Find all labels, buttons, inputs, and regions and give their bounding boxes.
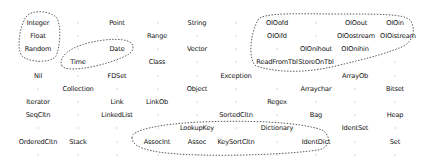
grid-dot	[38, 89, 39, 90]
class-node-storeontbl: StoreOnTbl	[298, 58, 333, 66]
grid-dot	[197, 76, 198, 77]
class-node-bag: Bag	[310, 111, 322, 119]
class-node-collection: Collection	[62, 85, 93, 93]
class-node-heap: Heap	[387, 111, 404, 119]
class-node-seqcltn: SeqCltn	[26, 111, 51, 119]
class-node-random: Random	[25, 45, 51, 53]
class-node-nil: Nil	[34, 72, 42, 80]
grid-dot	[38, 62, 39, 63]
class-node-float: Float	[30, 32, 46, 40]
class-node-link: Link	[111, 98, 124, 106]
grid-dot	[355, 155, 356, 156]
grid-dot	[395, 102, 396, 103]
class-node-regex: Regex	[267, 98, 287, 106]
grid-dot	[78, 49, 79, 50]
grid-dot	[395, 76, 396, 77]
class-node-readfromtbl: ReadFromTbl	[256, 58, 297, 66]
grid-dot	[277, 89, 278, 90]
grid-dot	[277, 142, 278, 143]
class-node-linkedlist: LinkedList	[101, 111, 133, 119]
class-node-time: Time	[70, 58, 86, 66]
grid-dot	[38, 155, 39, 156]
grid-dot	[277, 115, 278, 116]
class-node-linkob: LinkOb	[146, 98, 168, 106]
grid-dot	[236, 62, 237, 63]
grid-dot	[316, 36, 317, 37]
class-node-oioifd: OIOifd	[267, 32, 287, 40]
grid-dot	[236, 89, 237, 90]
grid-dot	[38, 128, 39, 129]
class-node-orderedcltn: OrderedCltn	[19, 138, 57, 146]
grid-dot	[117, 128, 118, 129]
class-node-bitset: Bitset	[386, 85, 404, 93]
class-node-dictionary: Dictionary	[261, 124, 293, 132]
grid-dot	[197, 155, 198, 156]
grid-dot	[277, 49, 278, 50]
class-node-set: Set	[390, 138, 400, 146]
class-node-range: Range	[147, 32, 167, 40]
class-node-keysortcltn: KeySortCltn	[217, 138, 254, 146]
grid-dot	[236, 23, 237, 24]
class-node-lookupkey: LookupKey	[180, 124, 214, 132]
class-node-identset: IdentSet	[342, 124, 369, 132]
grid-dot	[316, 155, 317, 156]
grid-dot	[197, 62, 198, 63]
class-node-iterator: Iterator	[26, 98, 49, 106]
class-node-assocint: AssocInt	[144, 138, 171, 146]
grid-dot	[197, 115, 198, 116]
class-node-oioout: OIOout	[345, 19, 367, 27]
grid-dot	[117, 89, 118, 90]
grid-dot	[277, 155, 278, 156]
class-node-exception: Exception	[220, 72, 251, 80]
grid-dot	[117, 142, 118, 143]
grid-dot	[158, 23, 159, 24]
grid-dot	[355, 115, 356, 116]
grid-dot	[355, 89, 356, 90]
grid-dot	[236, 36, 237, 37]
class-node-oionihout: OIOnihout	[300, 45, 332, 53]
grid-dot	[78, 155, 79, 156]
grid-dot	[158, 155, 159, 156]
grid-dot	[158, 49, 159, 50]
class-node-string: String	[188, 19, 207, 27]
grid-dot	[197, 36, 198, 37]
class-node-fdset: FDSet	[108, 72, 127, 80]
class-node-sortedcltn: SortedCltn	[219, 111, 252, 119]
grid-dot	[236, 155, 237, 156]
grid-dot	[78, 23, 79, 24]
grid-dot	[316, 128, 317, 129]
grid-dot	[316, 23, 317, 24]
class-node-oioistream: OIOistream	[380, 32, 416, 40]
class-node-vector: Vector	[187, 45, 207, 53]
grid-dot	[355, 102, 356, 103]
class-node-oioofd: OIOofd	[266, 19, 288, 27]
class-node-oioostream: OIOostream	[337, 32, 375, 40]
class-node-oionihin: OIOnihin	[341, 45, 368, 53]
grid-dot	[78, 102, 79, 103]
class-node-assoc: Assoc	[188, 138, 206, 146]
class-node-point: Point	[109, 19, 125, 27]
grid-dot	[236, 128, 237, 129]
grid-dot	[158, 128, 159, 129]
grid-dot	[395, 155, 396, 156]
grid-dot	[78, 128, 79, 129]
grid-dot	[158, 115, 159, 116]
grid-dot	[78, 115, 79, 116]
grid-dot	[236, 49, 237, 50]
grid-dot	[117, 62, 118, 63]
class-node-identdict: IdentDict	[302, 138, 331, 146]
grid-dot	[78, 36, 79, 37]
class-hierarchy-diagram: IntegerPointStringOIOofdOIOoutOIOinFloat…	[0, 0, 434, 162]
class-node-date: Date	[109, 45, 124, 53]
class-node-class: Class	[149, 58, 166, 66]
grid-dot	[117, 36, 118, 37]
grid-dot	[355, 142, 356, 143]
class-node-stack: Stack	[69, 138, 87, 146]
class-node-arraychar: Arraychar	[301, 85, 332, 93]
class-node-integer: Integer	[27, 19, 50, 27]
grid-dot	[158, 89, 159, 90]
grid-dot	[236, 102, 237, 103]
class-node-oioin: OIOin	[386, 19, 404, 27]
class-node-object: Object	[187, 85, 208, 93]
class-node-arrayob: ArrayOb	[342, 72, 368, 80]
